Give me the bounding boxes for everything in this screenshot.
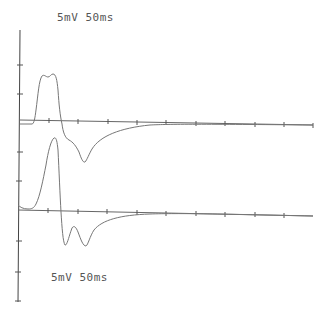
bottom-baseline-ticks — [48, 208, 284, 218]
top-scale-label: 5mV 50ms — [57, 11, 114, 24]
top-trace — [20, 74, 313, 162]
vertical-axis — [18, 30, 20, 302]
bottom-trace — [18, 138, 313, 246]
waveform-chart: 5mV 50ms 5mV 50ms — [0, 0, 322, 315]
waveform-plot — [0, 0, 322, 315]
bottom-scale-label: 5mV 50ms — [51, 271, 108, 284]
